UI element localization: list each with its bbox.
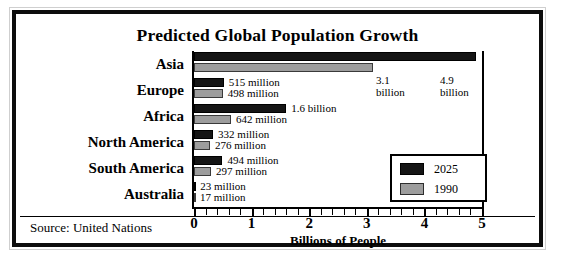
footer-divider: [20, 216, 535, 217]
x-axis-title: Billions of People: [194, 233, 482, 249]
value-label-africa-1990: 642 million: [236, 114, 287, 124]
legend-label-1990: 1990: [434, 182, 458, 196]
x-axis-tick-labels: 012345: [194, 215, 482, 233]
category-label-north-america: North America: [30, 129, 190, 155]
bar-asia-1990: [194, 63, 373, 72]
category-label-europe: Europe: [30, 77, 190, 103]
legend-label-2025: 2025: [434, 162, 458, 176]
bar-north-america-1990: [194, 141, 210, 150]
bar-north-america-2025: [194, 130, 213, 139]
bar-south-america-2025: [194, 156, 222, 165]
category-label-asia: Asia: [30, 51, 190, 77]
bar-australia-1990: [194, 193, 196, 202]
value-label-europe-1990: 498 million: [228, 88, 279, 98]
x-tick-label-3: 3: [363, 215, 371, 232]
bar-south-america-1990: [194, 167, 211, 176]
figure-frame: Predicted Global Population Growth Asia …: [12, 10, 543, 247]
category-label-africa: Africa: [30, 103, 190, 129]
bar-europe-1990: [194, 89, 223, 98]
x-tick-label-5: 5: [478, 215, 486, 232]
category-label-south-america: South America: [30, 155, 190, 181]
legend-swatch-1990-icon: [400, 183, 424, 195]
category-axis-labels: Asia Europe Africa North America South A…: [30, 51, 190, 207]
x-tick-label-0: 0: [190, 215, 198, 232]
bar-europe-2025: [194, 78, 224, 87]
chart-title: Predicted Global Population Growth: [16, 25, 539, 46]
x-axis-line: [192, 207, 484, 209]
bar-africa-2025: [194, 104, 286, 113]
value-label-south-america-1990: 297 million: [216, 166, 267, 176]
value-label-north-america-2025: 332 million: [218, 129, 269, 139]
x-tick-label-1: 1: [248, 215, 256, 232]
source-note: Source: United Nations: [30, 220, 152, 236]
bar-australia-2025: [194, 182, 196, 191]
value-label-europe-2025: 515 million: [229, 77, 280, 87]
figure-inner-border: Predicted Global Population Growth Asia …: [12, 10, 543, 247]
value-label-australia-2025: 23 million: [200, 181, 246, 191]
value-label-south-america-2025: 494 million: [227, 155, 278, 165]
x-tick-label-2: 2: [305, 215, 313, 232]
bar-row-europe: 515 million 498 million: [194, 77, 482, 103]
value-label-africa-2025: 1.6 billion: [291, 103, 336, 113]
bar-row-north-america: 332 million 276 million: [194, 129, 482, 155]
legend-swatch-2025-icon: [400, 163, 424, 175]
bar-row-asia: 3.1 billion 4.9 billion: [194, 51, 482, 77]
value-label-australia-1990: 17 million: [200, 192, 246, 202]
x-tick-label-4: 4: [421, 215, 429, 232]
bar-asia-2025: [194, 52, 476, 61]
chart-legend: 2025 1990: [390, 154, 487, 202]
bar-africa-1990: [194, 115, 231, 124]
category-label-australia: Australia: [30, 181, 190, 207]
value-label-north-america-1990: 276 million: [215, 140, 266, 150]
bar-row-africa: 1.6 billion 642 million: [194, 103, 482, 129]
